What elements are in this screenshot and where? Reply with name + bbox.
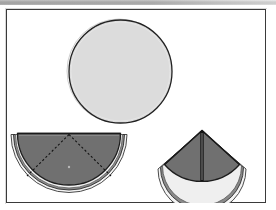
quarter-folded-napkin	[158, 131, 246, 204]
half-folded-napkin	[11, 134, 127, 193]
napkin-folding-illustration	[6, 9, 266, 203]
scan-top-bar	[0, 0, 276, 5]
half-fold-centre-dot	[68, 166, 70, 168]
scan-top-bar-gradient	[0, 0, 276, 5]
figure-page	[0, 0, 276, 210]
open-circle-napkin-body	[69, 20, 172, 123]
open-circle-napkin	[67, 19, 172, 123]
